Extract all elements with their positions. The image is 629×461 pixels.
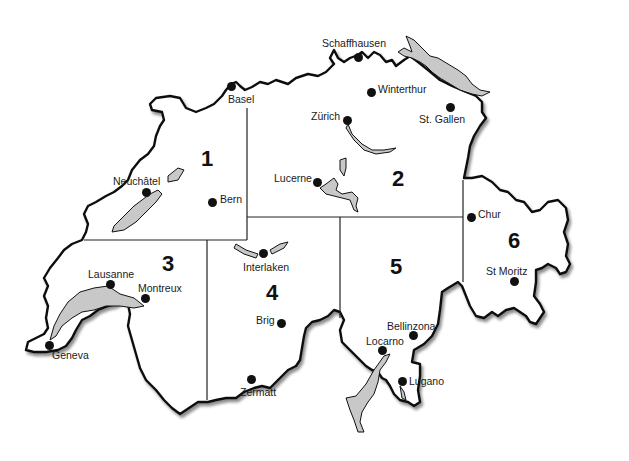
city-dot-icon: [227, 82, 236, 91]
city-dot-icon: [142, 188, 151, 197]
city-label: Basel: [228, 94, 254, 105]
city-dot-icon: [259, 249, 268, 258]
city-label: Geneva: [52, 350, 89, 361]
switzerland-map: [0, 0, 629, 461]
city-label: Neuchâtel: [113, 176, 160, 187]
city-label: Bern: [220, 194, 242, 205]
city-dot-icon: [277, 319, 286, 328]
city-label: Lausanne: [88, 269, 134, 280]
city-dot-icon: [208, 198, 217, 207]
city-dot-icon: [446, 103, 455, 112]
region-number-6: 6: [508, 230, 520, 252]
city-label: Brig: [256, 315, 275, 326]
city-dot-icon: [313, 178, 322, 187]
city-label: Winterthur: [378, 84, 426, 95]
region-number-2: 2: [392, 168, 404, 190]
city-label: Lugano: [409, 376, 444, 387]
city-label: Lucerne: [274, 173, 312, 184]
region-number-1: 1: [201, 148, 213, 170]
city-label: Locarno: [366, 336, 404, 347]
city-label: Bellinzona: [387, 321, 435, 332]
city-label: Chur: [478, 209, 501, 220]
city-dot-icon: [354, 53, 363, 62]
city-dot-icon: [467, 213, 476, 222]
city-dot-icon: [106, 280, 115, 289]
city-dot-icon: [247, 375, 256, 384]
country-border: [26, 50, 570, 414]
city-label: St Moritz: [486, 266, 527, 277]
city-dot-icon: [398, 377, 407, 386]
city-dot-icon: [510, 277, 519, 286]
city-label: St. Gallen: [419, 114, 465, 125]
city-label: Interlaken: [243, 262, 289, 273]
region-number-4: 4: [266, 282, 278, 304]
city-label: Zermatt: [240, 387, 276, 398]
city-dot-icon: [343, 116, 352, 125]
city-label: Zürich: [311, 111, 340, 122]
region-number-5: 5: [390, 256, 402, 278]
city-label: Schaffhausen: [322, 38, 386, 49]
city-dot-icon: [367, 88, 376, 97]
region-number-3: 3: [162, 253, 174, 275]
city-label: Montreux: [138, 283, 182, 294]
city-dot-icon: [141, 294, 150, 303]
